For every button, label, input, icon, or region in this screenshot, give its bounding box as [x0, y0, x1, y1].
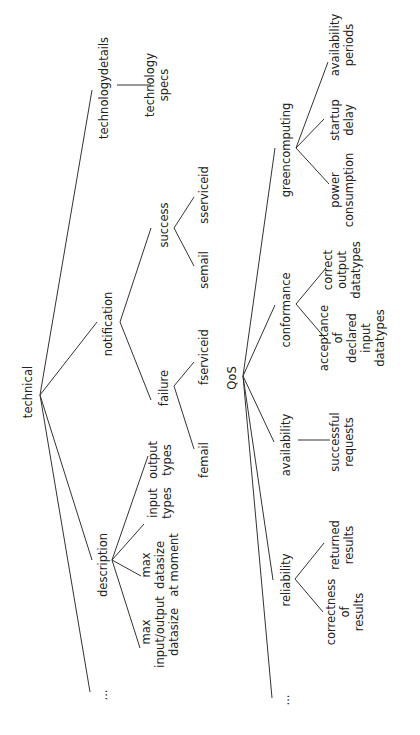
node-max-datasize-at-moment: max datasize at moment — [139, 533, 181, 597]
node-qos-ellipsis: ... — [278, 695, 292, 706]
node-label: technical — [21, 366, 35, 418]
node-label-line: power — [328, 172, 342, 208]
node-label-line: correct — [321, 249, 335, 290]
node-success: success — [157, 203, 171, 248]
node-label-line: of — [338, 606, 352, 618]
node-label-line: correctness — [324, 579, 338, 646]
node-technical: technical — [21, 366, 35, 418]
node-correctness-of-results: correctness of results — [324, 579, 366, 646]
node-notification: notification — [101, 292, 115, 357]
node-input-types: input types — [146, 487, 174, 519]
node-label-line: technology — [143, 53, 157, 117]
node-startup-delay: startup delay — [328, 99, 356, 140]
node-label-line: returned — [328, 520, 342, 570]
node-label-line: datatypes — [349, 241, 363, 299]
node-acceptance-input-datatypes: acceptance of declared input datatypes — [317, 305, 387, 371]
node-label-line: at moment — [167, 533, 181, 597]
node-label-line: max — [139, 552, 153, 577]
node-description: description — [96, 533, 110, 597]
node-label: failure — [157, 370, 171, 406]
node-qos: QoS — [225, 366, 239, 389]
node-label: description — [96, 533, 110, 597]
node-label-line: startup — [328, 99, 342, 140]
node-label-line: declared — [345, 313, 359, 363]
node-label: greencomputing — [279, 103, 293, 198]
node-label-line: successful — [328, 412, 342, 472]
node-failure: failure — [157, 370, 171, 406]
node-correct-output-datatypes: correct output datatypes — [321, 241, 363, 299]
node-label-line: input — [359, 323, 373, 353]
node-successful-requests: successful requests — [328, 412, 356, 472]
node-label-line: specs — [157, 69, 171, 102]
node-label: QoS — [225, 366, 239, 389]
node-label: reliability — [279, 553, 293, 606]
node-returned-results: returned results — [328, 520, 356, 570]
node-greencomputing: greencomputing — [279, 103, 293, 198]
node-technology-specs: technology specs — [143, 53, 171, 117]
node-label-line: input/output — [153, 596, 167, 668]
node-label-line: datasize — [153, 541, 167, 589]
node-max-input-output-datasize: max input/output datasize — [139, 596, 181, 668]
node-label-line: acceptance — [317, 305, 331, 371]
node-label: fserviceid — [197, 329, 211, 385]
node-label-line: max — [139, 619, 153, 644]
node-label: semail — [197, 251, 211, 289]
node-label-line: availability — [328, 14, 342, 77]
node-output-types: output types — [146, 441, 174, 479]
node-conformance: conformance — [279, 272, 293, 347]
node-label-line: requests — [342, 417, 356, 467]
node-label: technologydetails — [97, 37, 111, 139]
node-label: femail — [197, 442, 211, 478]
node-label: sserviceid — [197, 166, 211, 224]
node-technologydetails: technologydetails — [97, 37, 111, 139]
node-label: ... — [96, 690, 110, 701]
node-sserviceid: sserviceid — [197, 166, 211, 224]
node-label: ... — [278, 695, 292, 706]
node-label-line: input — [146, 488, 160, 518]
node-power-consumption: power consumption — [328, 153, 356, 227]
node-label: conformance — [279, 272, 293, 347]
node-technical-ellipsis: ... — [96, 690, 110, 701]
node-femail: femail — [197, 442, 211, 478]
node-label-line: datasize — [167, 608, 181, 656]
node-reliability: reliability — [279, 553, 293, 606]
node-label-line: types — [160, 444, 174, 476]
node-availability-periods: availability periods — [328, 14, 356, 77]
node-fserviceid: fserviceid — [197, 329, 211, 385]
node-label: success — [157, 203, 171, 248]
node-label-line: consumption — [342, 153, 356, 227]
node-label-line: output — [146, 441, 160, 479]
node-label-line: of — [331, 332, 345, 344]
node-label-line: delay — [342, 104, 356, 136]
node-label-line: types — [160, 487, 174, 519]
node-label-line: output — [335, 251, 349, 289]
node-semail: semail — [197, 251, 211, 289]
node-label-line: periods — [342, 24, 356, 67]
node-label-line: results — [342, 526, 356, 565]
node-label-line: datatypes — [373, 309, 387, 367]
node-availability: availability — [279, 414, 293, 477]
node-label-line: results — [352, 593, 366, 632]
node-label: notification — [101, 292, 115, 357]
taxonomy-tree-diagram: technical technologydetails technology s… — [0, 0, 420, 735]
node-label: availability — [279, 414, 293, 477]
